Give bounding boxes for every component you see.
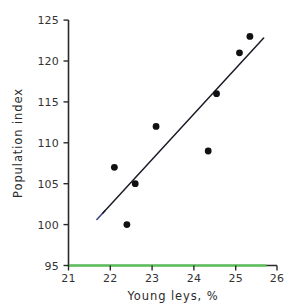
x-tick-label-4: 25 [228,272,242,285]
regression-line [103,38,264,213]
y-tick-label-6: 125 [37,14,59,27]
data-point-4 [205,148,212,155]
y-tick-label-4: 115 [37,96,59,109]
y-tick-label-5: 120 [37,55,59,68]
x-tick-label-2: 23 [145,272,159,285]
plot-area: 95 100 105 110 115 120 125 21 22 23 24 2… [0,0,297,308]
data-point-3 [153,123,160,130]
x-tick-label-3: 24 [187,272,201,285]
data-points [111,33,253,228]
data-point-6 [236,49,243,56]
data-point-1 [123,221,130,228]
x-tick-label-1: 22 [103,272,117,285]
y-tick-label-2: 105 [37,178,59,191]
y-tick-label-0: 95 [45,260,59,273]
x-tick-label-0: 21 [61,272,75,285]
x-axis-tick-labels: 21 22 23 24 25 26 [61,272,284,285]
x-tick-label-5: 26 [270,272,284,285]
x-axis-title: Young leys, % [126,289,218,303]
y-axis-title: Population index [11,88,25,198]
scatter-chart: 95 100 105 110 115 120 125 21 22 23 24 2… [0,0,297,308]
data-point-0 [111,164,118,171]
data-point-7 [247,33,254,40]
y-tick-label-1: 100 [37,219,59,232]
y-axis-tick-labels: 95 100 105 110 115 120 125 [37,14,59,272]
data-point-5 [213,90,220,97]
y-tick-label-3: 110 [37,137,59,150]
data-point-2 [132,180,139,187]
